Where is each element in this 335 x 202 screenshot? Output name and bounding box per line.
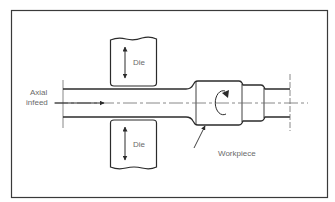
diagram-canvas: Axial infeed Die Die Workpiece: [0, 0, 335, 202]
workpiece-label: Workpiece: [218, 149, 256, 158]
axial-infeed-label-line1: Axial: [30, 88, 48, 97]
bottom-die-label: Die: [133, 140, 146, 149]
top-die-label: Die: [133, 58, 146, 67]
workpiece-leader: [194, 126, 205, 148]
diagram-frame: [12, 11, 328, 198]
axial-infeed-label-line2: infeed: [26, 98, 48, 107]
rotation-arrow-icon: [215, 90, 229, 115]
